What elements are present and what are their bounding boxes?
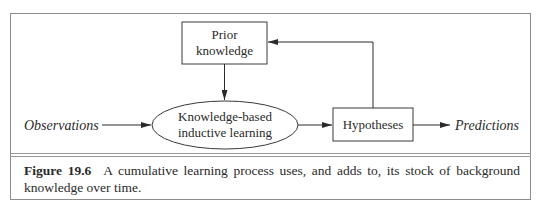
prior-knowledge-node: Prior knowledge xyxy=(182,22,267,64)
caption-text: A cumulative learning process uses, and … xyxy=(24,163,520,195)
observations-label: Observations xyxy=(24,118,99,133)
figure-caption: Figure 19.6A cumulative learning process… xyxy=(24,162,520,196)
prior-knowledge-line1: Prior xyxy=(212,27,239,42)
figure-label: Figure 19.6 xyxy=(24,163,91,178)
hypotheses-node: Hypotheses xyxy=(333,108,413,141)
learning-node: Knowledge-based inductive learning xyxy=(152,101,298,149)
feedback-arrow xyxy=(268,42,373,108)
prior-knowledge-line2: knowledge xyxy=(196,43,253,58)
learning-line2: inductive learning xyxy=(178,125,273,140)
hypotheses-label: Hypotheses xyxy=(343,117,404,132)
learning-line1: Knowledge-based xyxy=(178,109,272,124)
predictions-label: Predictions xyxy=(454,118,520,133)
